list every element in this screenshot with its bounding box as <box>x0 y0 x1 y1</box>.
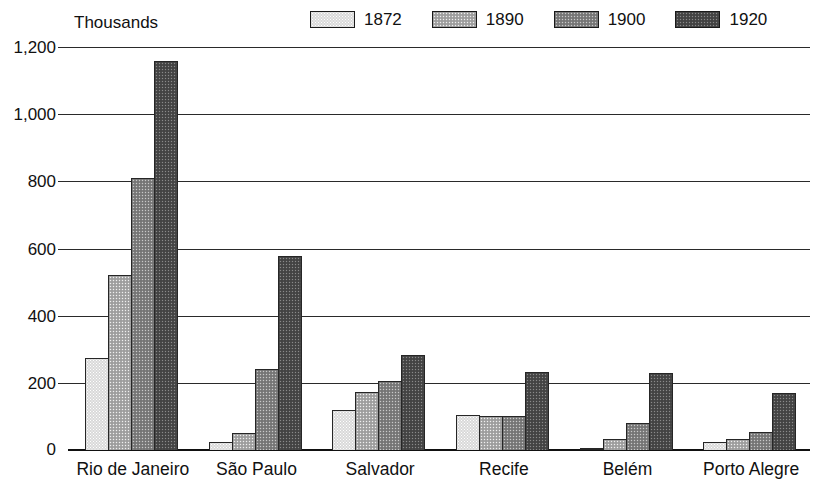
y-axis-tick-mark <box>58 181 68 182</box>
y-axis-tick-mark <box>58 316 68 317</box>
y-axis-tick-mark <box>58 114 68 115</box>
y-axis-tick-label: 1,000 <box>13 106 56 123</box>
x-axis-category-label: Salvador <box>346 459 415 479</box>
plot-area: Thousands 02004006008001,0001,200 Rio de… <box>0 0 818 495</box>
y-axis-tick-label: 600 <box>28 240 56 257</box>
x-axis-category-label: São Paulo <box>216 459 297 479</box>
y-axis-tick-label: 0 <box>47 441 56 458</box>
y-axis-tick-mark <box>58 249 68 250</box>
y-axis-tick-label: 800 <box>28 173 56 190</box>
y-axis-tick-mark <box>58 47 68 48</box>
x-axis-category-label: Belém <box>603 459 653 479</box>
y-axis-tick-label: 400 <box>28 307 56 324</box>
bar-chart: 1872 1890 1900 1920 Thousands 0200400600… <box>0 0 818 495</box>
x-axis-category-label: Recife <box>479 459 529 479</box>
y-axis-tick-label: 200 <box>28 374 56 391</box>
y-axis-tick-label: 1,200 <box>13 39 56 56</box>
y-axis-tick-mark <box>58 383 68 384</box>
x-axis-category-label: Rio de Janeiro <box>76 459 189 479</box>
x-axis-labels: Rio de JaneiroSão PauloSalvadorRecifeBel… <box>68 0 810 495</box>
x-axis-category-label: Porto Alegre <box>703 459 799 479</box>
